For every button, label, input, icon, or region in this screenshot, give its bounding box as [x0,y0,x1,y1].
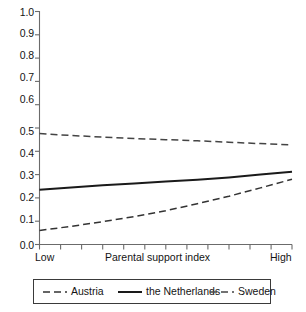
legend-item-sweden: Sweden [210,280,276,303]
legend-label-sweden: Sweden [238,286,276,297]
legend-item-austria: Austria [43,280,104,303]
chart-figure: 1.0 0.9 0.8 0.7 0.6 0.5 0.4 0.3 0.2 0.1 … [0,0,306,312]
legend-dash-icon-austria [43,288,67,296]
series-line-the-netherlands [40,172,293,190]
x-tick-marks [40,245,293,250]
chart-legend: Austria the Netherlands Sweden [33,279,271,304]
legend-dash-icon-sweden [210,288,234,296]
legend-label-austria: Austria [71,286,104,297]
legend-item-the-netherlands: the Netherlands [118,280,220,303]
legend-solid-icon-the-netherlands [118,288,142,296]
plot-area [0,0,306,312]
y-tick-marks [35,12,40,245]
series-line-sweden [40,134,293,145]
